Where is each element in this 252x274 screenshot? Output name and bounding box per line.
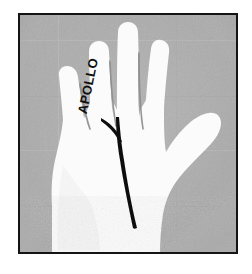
palmistry-figure: APOLLO [0, 0, 252, 274]
plate: APOLLO [19, 14, 237, 253]
figure-root: APOLLO Apollo finger palmistry diagram l… [0, 0, 252, 274]
